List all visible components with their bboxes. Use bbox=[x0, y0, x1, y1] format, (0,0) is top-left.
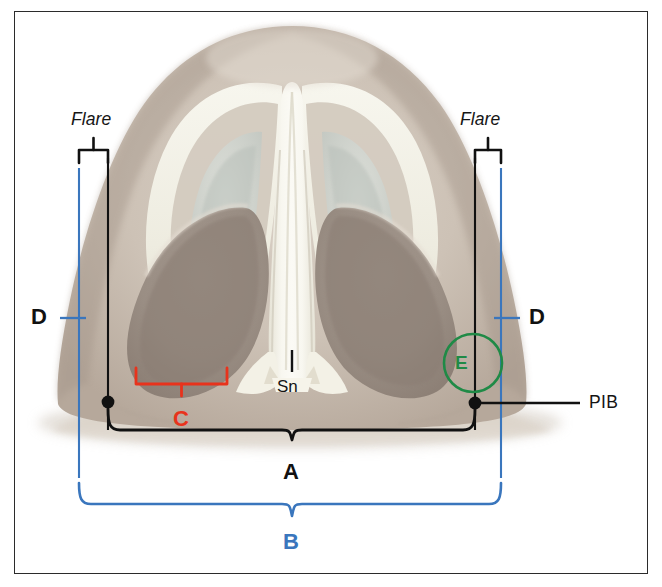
flare-bracket-left bbox=[79, 150, 108, 163]
measure-d-label-right: D bbox=[529, 306, 545, 328]
a-brace-black bbox=[108, 409, 475, 440]
measure-b-label: B bbox=[283, 531, 299, 553]
flare-label-right: Flare bbox=[460, 111, 500, 129]
b-brace-blue bbox=[79, 483, 501, 516]
measure-c-label: C bbox=[173, 408, 189, 430]
subnasale-label: Sn bbox=[277, 378, 298, 395]
region-e-circle bbox=[444, 334, 502, 392]
figure-root: Flare Flare D D C E Sn PIB A B bbox=[0, 0, 662, 587]
c-bracket-red bbox=[136, 368, 227, 384]
alar-base-point-left bbox=[102, 396, 115, 409]
flare-label-left: Flare bbox=[71, 111, 111, 129]
measure-d-label-left: D bbox=[31, 306, 47, 328]
flare-bracket-right bbox=[475, 150, 501, 163]
region-e-label: E bbox=[455, 353, 468, 372]
pib-label: PIB bbox=[589, 394, 618, 412]
measure-a-label: A bbox=[283, 461, 299, 483]
annotation-overlay bbox=[0, 0, 662, 587]
